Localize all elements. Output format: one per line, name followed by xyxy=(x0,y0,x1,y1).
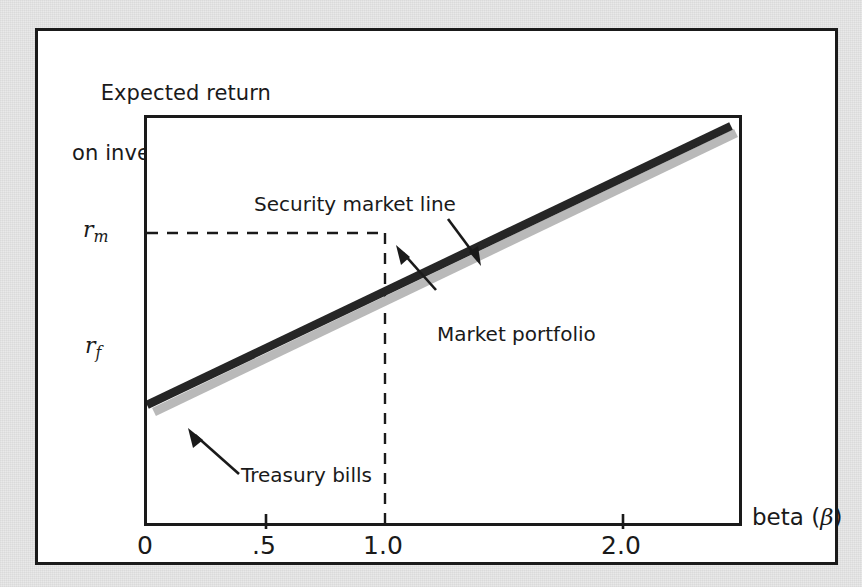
y-label-market-return-symbol: r xyxy=(83,217,94,242)
y-label-market-return-subscript: m xyxy=(94,227,109,246)
y-label-risk-free-rate: rf xyxy=(85,333,101,362)
x-axis-ticks xyxy=(266,514,623,529)
security-market-line xyxy=(147,126,731,405)
figure-canvas: Expected return on investment rm rf xyxy=(0,0,862,587)
treasury-bills-arrow xyxy=(188,428,239,474)
y-label-risk-free-rate-symbol: r xyxy=(85,333,96,358)
security-market-line-shadow xyxy=(154,133,736,412)
x-tick-label-1-0: 1.0 xyxy=(363,531,403,560)
x-axis-title: beta (β) xyxy=(752,504,842,530)
annotation-treasury-bills: Treasury bills xyxy=(241,463,372,487)
x-axis-title-close: ) xyxy=(833,504,842,530)
x-tick-label-2-0: 2.0 xyxy=(601,531,641,560)
plot-area: Security market line Market portfolio Tr… xyxy=(144,115,742,526)
y-label-market-return: rm xyxy=(83,217,109,246)
annotation-market-portfolio: Market portfolio xyxy=(437,322,596,346)
y-axis-title-line1: Expected return xyxy=(101,81,271,105)
x-axis-title-text: beta ( xyxy=(752,504,820,530)
x-tick-label-0: 0 xyxy=(137,531,153,560)
y-label-risk-free-rate-subscript: f xyxy=(96,343,102,362)
beta-symbol: β xyxy=(820,504,833,530)
annotation-security-market-line: Security market line xyxy=(254,192,456,216)
figure-outer-frame: Expected return on investment rm rf xyxy=(35,28,838,565)
x-tick-label-0-5: .5 xyxy=(252,531,276,560)
